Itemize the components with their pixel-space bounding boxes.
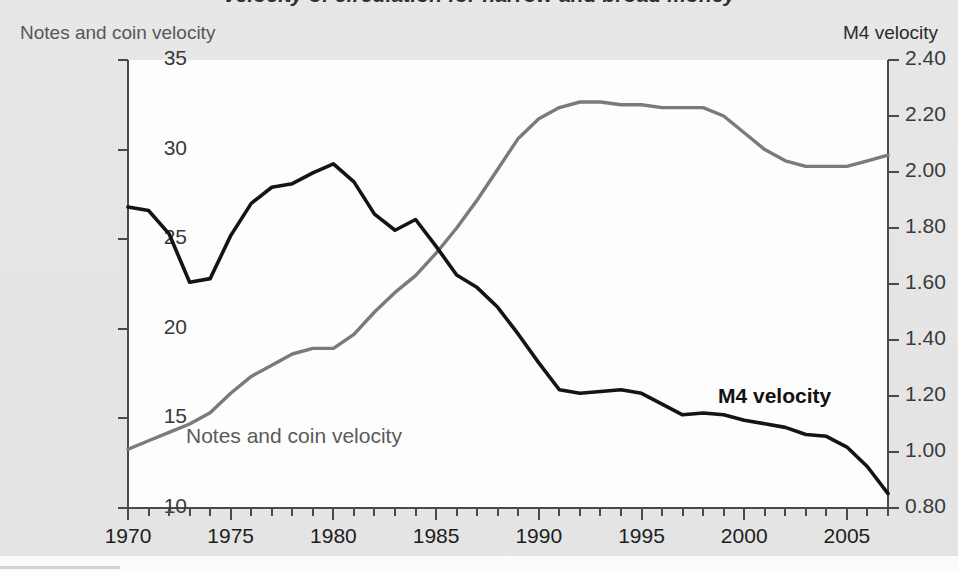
right-tick xyxy=(888,283,899,285)
right-tick xyxy=(888,115,899,117)
right-tick xyxy=(888,171,899,173)
x-tick-minor xyxy=(373,509,375,516)
x-tick-major xyxy=(846,509,848,520)
x-tick-minor xyxy=(415,509,417,516)
left-tick xyxy=(118,238,128,240)
notes-and-coin-velocity-annotation: Notes and coin velocity xyxy=(186,424,402,448)
x-tick-minor xyxy=(866,509,868,516)
left-tick-label: 35 xyxy=(164,46,187,70)
x-tick-minor xyxy=(784,509,786,516)
x-tick-minor xyxy=(558,509,560,516)
figure-title: Velocity of circulation for narrow and b… xyxy=(223,0,736,7)
x-tick-major xyxy=(743,509,745,520)
x-tick-minor xyxy=(497,509,499,516)
left-tick xyxy=(118,59,128,61)
x-tick-minor xyxy=(620,509,622,516)
left-tick-label: 25 xyxy=(164,225,187,249)
x-tick-major xyxy=(641,509,643,520)
x-tick-minor xyxy=(271,509,273,516)
x-tick-label: 2005 xyxy=(824,524,871,548)
right-tick-label: 2.40 xyxy=(905,46,946,70)
right-tick xyxy=(888,395,899,397)
figure-title-strip: Velocity of circulation for narrow and b… xyxy=(0,0,958,13)
x-tick-minor xyxy=(661,509,663,516)
x-tick-minor xyxy=(579,509,581,516)
right-tick xyxy=(888,339,899,341)
right-tick-label: 1.60 xyxy=(905,270,946,294)
x-tick-label: 1970 xyxy=(105,524,152,548)
x-tick-label: 1995 xyxy=(618,524,665,548)
x-tick-minor xyxy=(209,509,211,516)
left-tick-label: 30 xyxy=(164,136,187,160)
x-tick-minor xyxy=(456,509,458,516)
x-tick-label: 2000 xyxy=(721,524,768,548)
x-tick-minor xyxy=(887,509,889,516)
left-tick xyxy=(118,417,128,419)
right-axis-title: M4 velocity xyxy=(843,22,938,44)
x-tick-minor xyxy=(825,509,827,516)
x-tick-minor xyxy=(250,509,252,516)
x-tick-minor xyxy=(312,509,314,516)
x-tick-minor xyxy=(702,509,704,516)
x-tick-minor xyxy=(517,509,519,516)
right-tick-label: 1.40 xyxy=(905,326,946,350)
left-tick-label: 15 xyxy=(164,404,187,428)
x-tick-minor xyxy=(599,509,601,516)
right-tick-label: 0.80 xyxy=(905,494,946,518)
x-tick-major xyxy=(332,509,334,520)
footer-rule xyxy=(0,566,120,569)
x-tick-major xyxy=(230,509,232,520)
right-tick-label: 1.00 xyxy=(905,438,946,462)
x-tick-label: 1975 xyxy=(207,524,254,548)
right-tick xyxy=(888,507,899,509)
x-tick-minor xyxy=(148,509,150,516)
right-tick xyxy=(888,59,899,61)
x-tick-label: 1980 xyxy=(310,524,357,548)
left-tick-label: 20 xyxy=(164,315,187,339)
right-tick xyxy=(888,451,899,453)
m4-velocity-annotation: M4 velocity xyxy=(718,384,831,408)
x-tick-label: 1985 xyxy=(413,524,460,548)
x-tick-label: 1990 xyxy=(515,524,562,548)
x-tick-major xyxy=(127,509,129,520)
x-tick-minor xyxy=(764,509,766,516)
x-tick-minor xyxy=(291,509,293,516)
right-tick-label: 2.00 xyxy=(905,158,946,182)
x-tick-minor xyxy=(394,509,396,516)
x-tick-minor xyxy=(353,509,355,516)
x-tick-minor xyxy=(682,509,684,516)
right-tick-label: 1.80 xyxy=(905,214,946,238)
x-tick-major xyxy=(538,509,540,520)
x-axis-line xyxy=(127,507,889,509)
x-tick-major xyxy=(435,509,437,520)
x-tick-minor xyxy=(189,509,191,516)
x-tick-minor xyxy=(723,509,725,516)
right-tick xyxy=(888,227,899,229)
x-tick-minor xyxy=(168,509,170,516)
right-tick-label: 1.20 xyxy=(905,382,946,406)
left-tick xyxy=(118,328,128,330)
x-tick-minor xyxy=(476,509,478,516)
page-footer-band xyxy=(0,556,958,572)
left-axis-line xyxy=(127,60,129,509)
figure-page: Velocity of circulation for narrow and b… xyxy=(0,0,958,572)
left-tick xyxy=(118,149,128,151)
x-tick-minor xyxy=(805,509,807,516)
right-tick-label: 2.20 xyxy=(905,102,946,126)
left-axis-title: Notes and coin velocity xyxy=(20,22,215,44)
